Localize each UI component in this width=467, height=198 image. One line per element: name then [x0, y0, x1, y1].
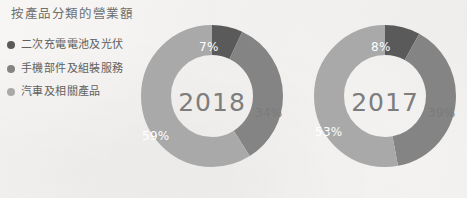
legend-bullet-dot-icon [7, 88, 15, 96]
legend-bullet-dot-icon [7, 41, 15, 49]
donut-2018-label-2: 59% [142, 129, 170, 143]
legend-item-label: 手機部件及組裝服務 [21, 62, 124, 77]
legend-item-label: 二次充電電池及光伏 [21, 38, 124, 53]
legend-item-label: 汽車及相關產品 [21, 85, 101, 100]
donut-2018-label-1: 34% [255, 106, 283, 120]
page-title: 按產品分類的營業額 [11, 6, 133, 22]
legend-item-automobile-products: 汽車及相關產品 [7, 85, 135, 100]
donut-2017-label-1: 39% [428, 106, 456, 120]
chart-legend: 二次充電電池及光伏 手機部件及組裝服務 汽車及相關產品 [7, 38, 135, 109]
legend-item-handset-components: 手機部件及組裝服務 [7, 62, 135, 77]
legend-bullet-dot-icon [7, 65, 15, 73]
donut-2017-label-2: 53% [315, 125, 343, 139]
legend-item-rechargeable-battery: 二次充電電池及光伏 [7, 38, 135, 53]
donut-2018-label-0: 7% [199, 40, 219, 54]
chart-figure: 按產品分類的營業額 二次充電電池及光伏 手機部件及組裝服務 汽車及相關產品 [0, 0, 467, 198]
donut-chart-2018: 2018 7% 34% 59% [136, 12, 288, 188]
donut-2017-label-0: 8% [371, 40, 391, 54]
donut-chart-2017: 2017 8% 39% 53% [309, 12, 461, 188]
